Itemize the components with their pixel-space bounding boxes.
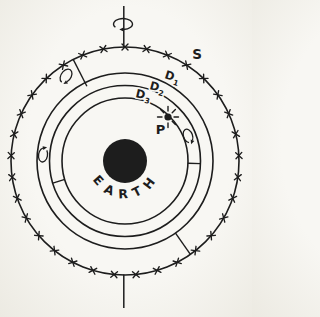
spin-indicator-left (38, 146, 47, 162)
x-tick-mark (217, 91, 219, 100)
x-tick-mark (59, 64, 67, 66)
x-tick-mark (54, 246, 55, 255)
x-tick-mark (28, 94, 37, 95)
label-d3-subscript: 3 (144, 96, 151, 106)
curved-arrow-loop (38, 148, 47, 162)
arrowhead (43, 146, 48, 150)
spin-indicator-axis-top (114, 19, 133, 32)
label-sphere-s: S (192, 46, 202, 62)
spoke-upper-left (73, 59, 87, 86)
arrowhead (191, 140, 195, 145)
point-p-starburst-dot (164, 113, 171, 120)
spoke-lower-right (176, 233, 191, 254)
x-tick-mark (186, 61, 188, 69)
spin-indicator-upper-left (60, 69, 72, 84)
label-shell-d1: D1 (162, 68, 182, 88)
earth-filled-circle (103, 139, 147, 183)
starburst-ray (172, 110, 175, 113)
arrowhead (119, 28, 123, 32)
x-tick-mark (39, 231, 40, 240)
label-point-p: P (156, 122, 166, 137)
x-tick-mark (207, 235, 216, 236)
curved-arrow-loop (60, 69, 72, 82)
earth-orbital-shells-diagram: S D1 D2 D3 P EARTH (0, 0, 252, 317)
x-tick-mark (191, 250, 200, 251)
scanned-figure-page: S D1 D2 D3 P EARTH (0, 0, 252, 317)
spoke-left (53, 179, 65, 183)
